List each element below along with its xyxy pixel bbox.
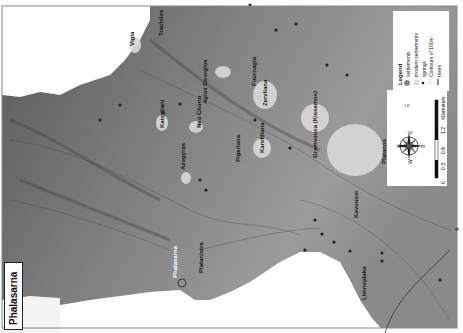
place-label-zervliana: Zervliana (262, 80, 268, 106)
place-label-kavousoi: Kavousoi (353, 191, 359, 218)
legend-symbols (393, 11, 449, 91)
place-label-trachilos: Trachilos (158, 10, 164, 36)
legend-item-springs: springs (421, 61, 427, 77)
place-label-platanistra: Platanistra (198, 242, 204, 273)
scale-tick-1-2: 1.2 (440, 127, 446, 134)
legend-item-contours: Contours of 100m (428, 37, 434, 77)
place-label-phalasarna: Phalasarna (172, 246, 178, 278)
compass-e: E (407, 131, 413, 134)
place-label-fournagia: Fournagia (251, 57, 257, 86)
map-title-box: Phalasarna (4, 262, 23, 330)
scale-unit: Kilometers (440, 96, 446, 120)
legend-item-rivers: rivers (436, 65, 442, 77)
compass-w: W (407, 159, 413, 164)
legend-item-modern-settlements: modern settlements (413, 33, 419, 77)
legend: Legend settlements modern settlements sp… (392, 10, 450, 92)
scale-compass-box: E . N E S W Kilometers 0 0.3 0.6 1.2 (387, 90, 447, 186)
svg-text:E: E (404, 103, 410, 107)
place-label-vigla: Vigla (129, 32, 135, 46)
place-label-karefiliana: Karefiliana (259, 122, 265, 153)
scale-tick-0-6: 0.6 (440, 147, 446, 154)
map-view: Vigla Trachilos Katsyliani Neo Chorio Ag… (0, 0, 463, 333)
legend-item-settlements: settlements (405, 51, 411, 77)
place-label-pigerlana: Pigerlana (235, 135, 241, 162)
scale-tick-0-3: 0.3 (440, 163, 446, 170)
place-label-agios-georgios: Agios Georgios (202, 59, 208, 104)
compass-n: N (397, 144, 403, 148)
compass-rose-icon: E . (387, 90, 447, 186)
compass-s: S (420, 145, 426, 148)
place-label-azogyras: Azogyras (180, 143, 186, 170)
scale-tick-0: 0 (440, 181, 446, 184)
place-label-katsyliani: Katsyliani (159, 100, 165, 128)
place-label-gramvousa: Gramvousa (Kissamos) (312, 91, 318, 158)
place-label-limnoplaka: Limnoplaka (361, 267, 367, 300)
map-title: Phalasarna (8, 272, 19, 325)
